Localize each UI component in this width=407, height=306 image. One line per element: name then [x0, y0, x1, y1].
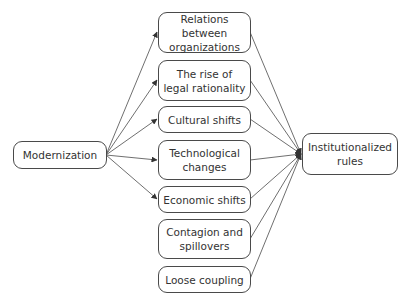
edge-modernization-economic [106, 155, 157, 199]
node-relations-between-organizations: Relations between organizations [158, 12, 251, 53]
node-economic-shifts: Economic shifts [158, 186, 251, 213]
node-technological-changes: Technological changes [158, 140, 251, 180]
edge-economic-institutionalized [250, 154, 301, 199]
edge-modernization-technological [106, 155, 157, 160]
node-cultural-shifts: Cultural shifts [158, 106, 251, 133]
edge-technological-institutionalized [250, 154, 301, 160]
node-contagion-and-spillovers: Contagion and spillovers [158, 219, 251, 259]
diagram-canvas: Modernization Relations between organiza… [0, 0, 407, 306]
edge-relations-institutionalized [250, 32, 301, 154]
edge-modernization-legal [106, 80, 157, 155]
edge-legal-institutionalized [250, 80, 301, 154]
node-rise-of-legal-rationality: The rise of legal rationality [158, 60, 251, 101]
edge-coupling-institutionalized [250, 154, 301, 279]
node-modernization: Modernization [13, 141, 107, 169]
node-loose-coupling: Loose coupling [158, 266, 251, 293]
node-institutionalized-rules: Institutionalized rules [302, 133, 398, 175]
edge-contagion-institutionalized [250, 154, 301, 239]
